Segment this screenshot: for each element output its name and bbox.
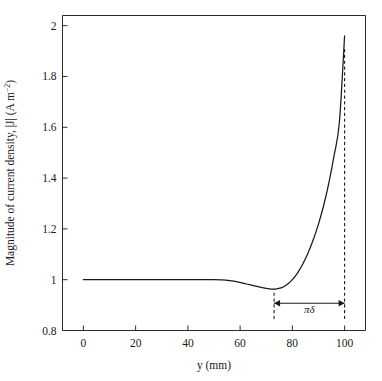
y-tick-label: 1.6 [42, 121, 57, 133]
y-tick-label: 1 [51, 274, 57, 286]
x-tick-label: 40 [182, 337, 194, 349]
current-density-curve [83, 36, 344, 289]
x-tick-label: 0 [81, 337, 87, 349]
x-tick-label: 80 [287, 337, 299, 349]
x-axis-ticks [83, 326, 344, 331]
y-axis-tick-labels: 0.811.21.41.61.82 [42, 20, 57, 337]
x-axis-title: y (mm) [197, 359, 231, 372]
current-density-plot: 0.811.21.41.61.82 020406080100 πδ y (mm)… [0, 0, 382, 381]
guide-dashed-lines [274, 46, 345, 319]
y-tick-label: 1.8 [42, 70, 57, 82]
x-tick-label: 60 [234, 337, 246, 349]
y-tick-label: 1.2 [42, 223, 57, 235]
skin-depth-label: πδ [304, 303, 316, 315]
plot-frame [63, 16, 366, 331]
y-tick-label: 1.4 [42, 172, 57, 184]
x-tick-label: 100 [336, 337, 354, 349]
y-axis-title-superscript: −2 [3, 84, 12, 92]
arrow-head-right [339, 300, 345, 306]
y-tick-label: 2 [51, 20, 57, 32]
y-axis-ticks [63, 26, 68, 331]
arrow-head-left [274, 300, 280, 306]
x-tick-label: 20 [130, 337, 142, 349]
axes-rectangle [63, 16, 366, 331]
y-tick-label: 0.8 [42, 325, 57, 337]
y-axis-title: Magnitude of current density, |J| (A m−2… [3, 80, 17, 266]
y-axis-title-main: Magnitude of current density, |J| (A m [4, 92, 17, 266]
chart-figure: 0.811.21.41.61.82 020406080100 πδ y (mm)… [0, 0, 382, 381]
x-axis-tick-labels: 020406080100 [81, 337, 354, 349]
y-axis-title-tail: ) [4, 80, 17, 84]
